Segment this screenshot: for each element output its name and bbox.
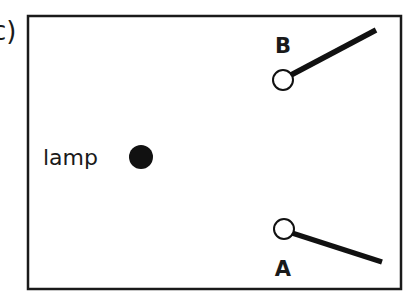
two-way-switch-diagram: c) lamp B A [0,0,419,305]
switch-b-label: B [275,34,291,58]
switch-a-pivot-icon [274,219,294,239]
switch-b: B [273,30,376,90]
switch-a: A [274,219,382,281]
part-label: c) [0,16,16,46]
switch-b-pivot-icon [273,70,293,90]
lamp-label: lamp [43,145,98,170]
switch-a-label: A [275,257,292,281]
lamp-group: lamp [43,145,153,170]
switch-b-lever [291,30,376,75]
lamp-icon [129,145,153,169]
switch-a-lever [292,233,382,262]
